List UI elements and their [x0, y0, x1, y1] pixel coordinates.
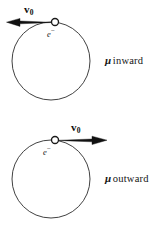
velocity-symbol-inward: v [24, 3, 30, 15]
electron-label-outward: e− [43, 145, 51, 157]
electron-marker-inward [52, 19, 59, 26]
caption-text-inward: inward [113, 55, 143, 66]
caption-outward: μoutward [105, 172, 149, 184]
diagram-outward [12, 136, 107, 218]
velocity-arrow-inward [7, 18, 56, 26]
mu-symbol-outward: μ [105, 172, 113, 184]
figure-root: v0 e− μinward v0 e− μoutward [0, 0, 159, 227]
velocity-subscript-inward: 0 [30, 8, 34, 17]
velocity-label-outward: v0 [71, 121, 81, 135]
electron-charge-sign-outward: − [47, 145, 51, 153]
electron-label-inward: e− [47, 27, 55, 39]
orbit-circle-outward [12, 140, 90, 218]
velocity-symbol-outward: v [71, 121, 77, 133]
velocity-arrow-shape-outward [55, 136, 107, 144]
electron-charge-sign-inward: − [51, 27, 55, 35]
velocity-label-inward: v0 [24, 3, 34, 17]
electron-marker-outward [52, 137, 59, 144]
caption-inward: μinward [105, 54, 143, 66]
diagram-canvas [0, 0, 159, 227]
velocity-arrow-outward [55, 136, 107, 144]
mu-symbol-inward: μ [105, 54, 113, 66]
caption-text-outward: outward [113, 173, 149, 184]
velocity-arrow-shape-inward [7, 18, 56, 26]
velocity-subscript-outward: 0 [77, 126, 81, 135]
